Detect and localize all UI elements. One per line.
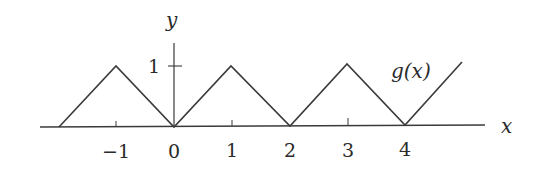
x-axis bbox=[40, 125, 485, 127]
function-plot: y 1 x −1 0 1 2 3 4 g(x) bbox=[0, 0, 539, 171]
x-tick-label-0: 0 bbox=[168, 140, 180, 162]
y-axis-label: y bbox=[165, 8, 178, 32]
x-axis-label: x bbox=[501, 114, 512, 138]
x-tick-label-1: 1 bbox=[226, 139, 238, 161]
x-tick-label-3: 3 bbox=[342, 139, 354, 161]
x-tick-label-2: 2 bbox=[284, 139, 296, 161]
y-tick-label-1: 1 bbox=[148, 55, 160, 77]
x-tick-label-4: 4 bbox=[399, 138, 411, 160]
x-tick-label-neg1: −1 bbox=[102, 140, 130, 162]
function-label: g(x) bbox=[391, 59, 431, 83]
